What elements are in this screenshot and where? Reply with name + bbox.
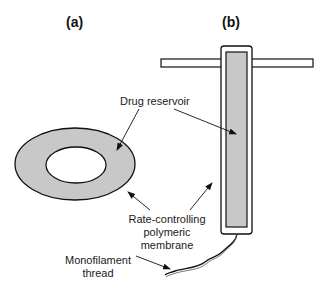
vaginal-ring [15,128,135,200]
panel-a-label: (a) [66,14,83,30]
membrane-label-line2: polymeric [143,226,191,238]
membrane-label-line3: membrane [141,239,194,251]
panel-b-label: (b) [222,14,240,30]
drug-delivery-diagram: (a) (b) Drug reservoir Rate-controlling … [0,0,328,292]
thread-label-line2: thread [82,267,113,279]
thread-label-line1: Monofilament [65,254,131,266]
membrane-label-line1: Rate-controlling [128,213,205,225]
drug-reservoir-label: Drug reservoir [120,95,190,107]
